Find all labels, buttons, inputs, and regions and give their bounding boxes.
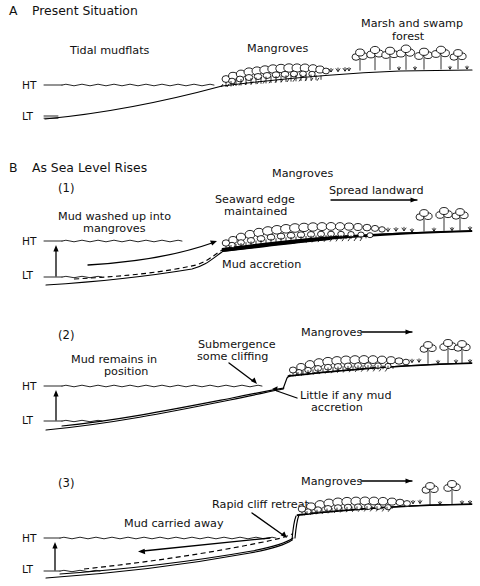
label-mangroves-a: Mangroves [247, 42, 308, 55]
panel-b3-number: (3) [58, 476, 74, 490]
label-tidal-mudflats: Tidal mudflats [69, 44, 150, 57]
panel-b1-number: (1) [58, 181, 74, 195]
label-ht-b1: HT [22, 235, 37, 247]
mangrove-sea-level-diagram: A Present Situation Tidal mudflats Mangr… [0, 0, 480, 586]
label-lt-b2: LT [22, 414, 33, 426]
label-ht-b3: HT [22, 532, 37, 544]
label-ht-b2: HT [22, 380, 37, 392]
label-ht-a: HT [22, 79, 37, 91]
label-submergence-line2: some cliffing [197, 350, 268, 363]
label-seaward-edge-line2: maintained [224, 205, 287, 218]
panel-b-letter: B [9, 160, 18, 175]
label-spread-landward: Spread landward [329, 184, 424, 197]
label-mud-remains-line2: position [104, 365, 148, 378]
panel-a-title: Present Situation [32, 3, 138, 18]
label-marsh-forest-line1: Marsh and swamp [361, 17, 463, 30]
label-mud-washed-line2: mangroves [83, 222, 146, 235]
label-mangroves-b2: Mangroves [301, 326, 362, 339]
label-lt-b1: LT [22, 269, 33, 281]
label-rapid-cliff-retreat: Rapid cliff retreat [212, 498, 310, 511]
label-little-mud-line2: accretion [311, 401, 363, 414]
panel-a-letter: A [9, 3, 18, 18]
label-mangroves-b3: Mangroves [301, 475, 362, 488]
label-marsh-forest-line2: forest [392, 30, 425, 43]
panel-b-title: As Sea Level Rises [32, 160, 147, 175]
label-mangroves-b1: Mangroves [272, 167, 333, 180]
panel-b2-number: (2) [58, 328, 74, 342]
figure-container: A Present Situation Tidal mudflats Mangr… [0, 0, 480, 586]
label-mud-accretion: Mud accretion [222, 258, 301, 271]
label-lt-a: LT [22, 110, 33, 122]
label-mud-carried-away: Mud carried away [124, 517, 224, 530]
label-lt-b3: LT [22, 563, 33, 575]
